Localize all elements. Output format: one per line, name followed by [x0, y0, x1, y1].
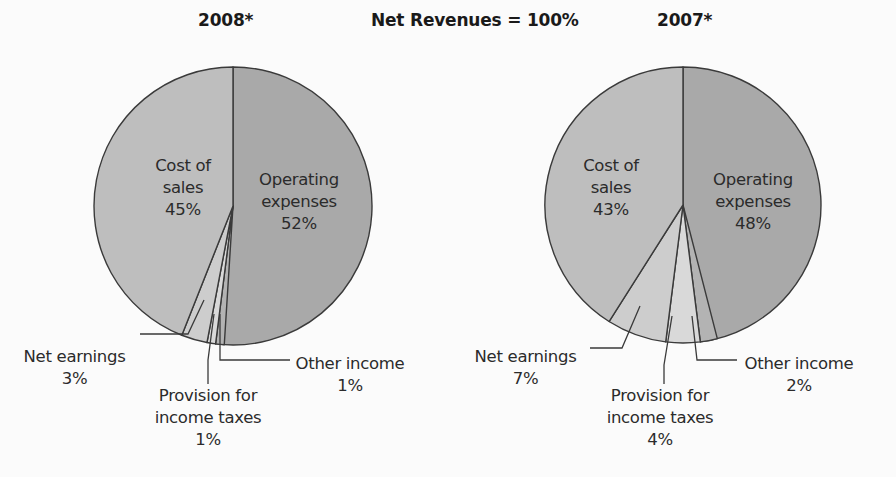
value-2008-provision: 1%	[195, 430, 221, 449]
value-2008-other-income: 1%	[337, 376, 363, 395]
label-2007-cost-of-sales: Cost of sales 43%	[568, 155, 654, 221]
value-2008-net-earnings: 3%	[62, 369, 88, 388]
label-2008-provision: Provision for income taxes 1%	[143, 385, 273, 451]
label-2008-operating-expenses: Operating expenses 52%	[240, 169, 358, 235]
label-2007-operating-expenses: Operating expenses 48%	[694, 169, 812, 235]
value-2008-cost-of-sales: 45%	[165, 200, 201, 219]
value-2007-provision: 4%	[647, 430, 673, 449]
value-2007-net-earnings: 7%	[513, 369, 539, 388]
label-2007-net-earnings: Net earnings 7%	[463, 346, 588, 390]
value-2007-other-income: 2%	[786, 376, 812, 395]
value-2008-operating-expenses: 52%	[281, 214, 317, 233]
label-2007-provision: Provision for income taxes 4%	[595, 385, 725, 451]
label-2008-net-earnings: Net earnings 3%	[12, 346, 137, 390]
pie-charts	[0, 0, 896, 477]
label-2008-other-income: Other income 1%	[290, 353, 410, 397]
label-2007-other-income: Other income 2%	[739, 353, 859, 397]
value-2007-cost-of-sales: 43%	[593, 200, 629, 219]
value-2007-operating-expenses: 48%	[735, 214, 771, 233]
label-2008-cost-of-sales: Cost of sales 45%	[140, 155, 226, 221]
